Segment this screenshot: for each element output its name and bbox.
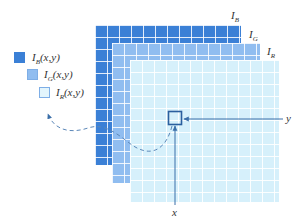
diagram-overlay [0, 0, 299, 222]
y-axis-label: y [286, 113, 291, 124]
x-axis-label: x [172, 207, 177, 218]
highlighted-pixel [169, 112, 182, 125]
dashed-connector-arrow [48, 114, 172, 151]
